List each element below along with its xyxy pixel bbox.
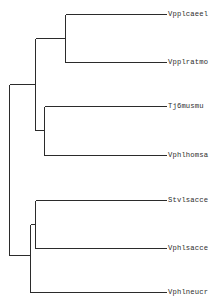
tip-label-tj6musmu: Tj6musmu: [168, 102, 204, 110]
phylogenetic-tree-figure: Vpplcaeel Vpplratmo Tj6musmu Vphlhomsa S…: [0, 0, 213, 305]
tip-label-vpplcaeel: Vpplcaeel: [168, 10, 208, 18]
tip-label-vpplratmo: Vpplratmo: [168, 58, 208, 66]
tip-label-vphlsacce: Vphlsacce: [168, 244, 208, 252]
tip-label-stvlsacce: Stvlsacce: [168, 196, 208, 204]
tip-label-vphlhomsa: Vphlhomsa: [168, 151, 208, 159]
tip-label-vphlneucr: Vphlneucr: [168, 288, 208, 296]
